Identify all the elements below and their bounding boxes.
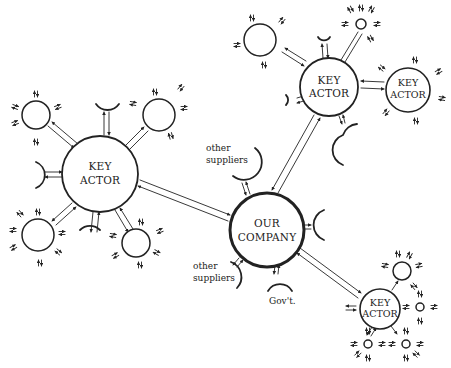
arc-symbol	[36, 162, 45, 188]
arc-symbol	[333, 124, 357, 165]
arc-symbol	[96, 104, 119, 110]
satellite-circle	[143, 99, 175, 131]
node-our-company[interactable]: OUR COMPANY	[230, 193, 304, 267]
node-label: OUR	[254, 217, 281, 229]
node-label: KEY	[370, 297, 391, 308]
satellite-circle	[416, 303, 424, 311]
satellite-circle	[244, 24, 276, 56]
label-other-suppliers-bottom: other	[193, 261, 218, 271]
link-left-actor-company	[138, 180, 230, 221]
arc-symbol	[268, 284, 292, 291]
satellite-circle	[122, 229, 150, 257]
node-label: ACTOR	[389, 89, 426, 100]
satellite-circle	[393, 262, 411, 280]
label-government: Gov't.	[269, 296, 296, 306]
node-key-actor-far-right[interactable]: KEY ACTOR	[386, 68, 430, 112]
node-key-actor-top[interactable]: KEY ACTOR	[300, 58, 358, 116]
node-key-actor-bottom-right[interactable]: KEY ACTOR	[360, 289, 400, 329]
satellite-circle	[402, 340, 410, 348]
node-label: KEY	[317, 74, 341, 86]
satellite-circle	[364, 340, 372, 348]
node-key-actor-left[interactable]: KEY ACTOR	[62, 136, 138, 212]
label-other-suppliers-top: other	[206, 143, 231, 153]
link-company-bottom-actor	[297, 248, 361, 298]
arc-symbol	[314, 210, 324, 240]
label-other-suppliers-bottom: suppliers	[193, 273, 235, 283]
node-label: COMPANY	[238, 231, 297, 243]
arc-symbol	[318, 37, 330, 40]
arc-symbol	[286, 95, 288, 105]
node-label: ACTOR	[308, 87, 350, 99]
node-label: ACTOR	[79, 174, 121, 186]
network-diagram: KEY ACTOR OUR COMPANY KEY ACTOR KEY ACTO…	[0, 0, 451, 368]
satellite-circle	[22, 219, 54, 251]
node-label: KEY	[88, 160, 112, 172]
satellite-circle	[22, 101, 50, 129]
node-label: KEY	[398, 77, 419, 88]
node-label: ACTOR	[361, 308, 398, 319]
link-top-actor-company	[272, 115, 320, 193]
label-other-suppliers-top: suppliers	[206, 155, 248, 165]
satellite-circle	[356, 19, 366, 29]
link-top-actor-far-right	[361, 81, 384, 89]
